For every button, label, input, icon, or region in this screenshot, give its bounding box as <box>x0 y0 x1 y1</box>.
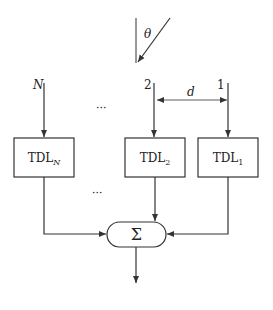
ellipsis-bottom: ··· <box>92 187 103 200</box>
tdl-subscript: 1 <box>238 158 243 167</box>
ellipsis-top: ··· <box>96 102 107 115</box>
sigma-icon: Σ <box>131 225 142 244</box>
summer-block: Σ <box>107 222 166 247</box>
connection-1 <box>167 177 228 234</box>
incident-arrow-icon <box>138 18 170 62</box>
tdl-block-1: TDL1 <box>198 138 258 177</box>
tdl-subscript: 2 <box>165 158 170 167</box>
connection-N <box>44 177 106 234</box>
beamformer-diagram: θ N 2 1 ··· d TDLN TDL2 TDL1 ··· Σ <box>0 0 273 310</box>
tdl-label: TDL <box>140 151 166 165</box>
sensor-label-1: 1 <box>217 78 225 92</box>
sensor-label-N: N <box>32 78 44 92</box>
tdl-block-N: TDLN <box>14 138 74 177</box>
spacing-label: d <box>187 85 195 99</box>
sensor-inputs: N 2 1 ··· <box>32 78 228 137</box>
tdl-subscript: N <box>52 158 61 167</box>
tdl-block-2: TDL2 <box>125 138 185 177</box>
sensor-label-2: 2 <box>144 78 152 92</box>
angle-label: θ <box>144 27 152 41</box>
incident-wave: θ <box>136 18 170 63</box>
tdl-label: TDL <box>213 151 239 165</box>
tdl-label: TDL <box>28 151 54 165</box>
